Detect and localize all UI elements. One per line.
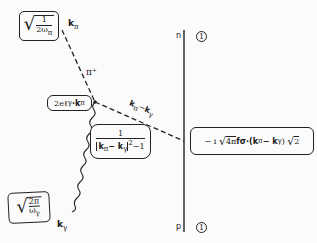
photon-line [72,102,95,212]
photon-normalization-box: √ 2π ωγ [7,191,51,224]
pion-line [62,30,95,102]
pion-label: π⁺ [86,68,97,77]
denominator: 2ω [36,25,48,34]
nucleon-vertex-factor-box: − i √4πfσ·(kπ− kγ) √2 [190,127,314,155]
neutron-label: n [176,32,181,40]
pion-momentum-label: kπ [68,19,79,31]
proton-label: p [176,223,181,231]
radical-icon: √ [287,135,294,148]
vertex-factor-box: 2eℓγ·kπ [47,95,92,111]
proton-factor: 1 [196,222,207,233]
numerator: 1 [118,130,123,138]
propagator-factor-box: 1 kπ− kγ2−1 [90,124,151,159]
numerator: 1 [42,16,47,24]
vertex-dot [93,100,97,104]
neutron-factor: 1 [196,31,207,42]
photon-momentum-label: kγ [57,220,67,232]
sqrt-expression: √ 1 2ωπ [24,15,55,36]
radical-icon: √ [219,135,226,148]
pion-normalization-box: √ 1 2ωπ [19,11,59,41]
